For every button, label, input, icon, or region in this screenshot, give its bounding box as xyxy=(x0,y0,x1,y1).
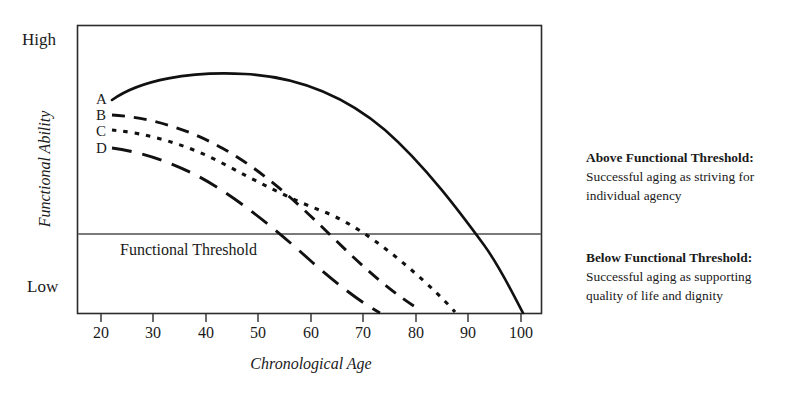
curve-label-b: B xyxy=(96,108,106,123)
annotation-above-threshold: Above Functional Threshold: Successful a… xyxy=(586,148,792,205)
x-tick-30: 30 xyxy=(133,324,173,342)
x-axis-ticks xyxy=(101,313,521,322)
x-axis-title: Chronological Age xyxy=(196,355,426,373)
annotation-above-title: Above Functional Threshold: xyxy=(586,148,792,167)
functional-threshold-caption: Functional Threshold xyxy=(120,241,257,259)
x-tick-80: 80 xyxy=(396,324,436,342)
curve-label-a: A xyxy=(96,92,107,107)
curve-b-path xyxy=(112,115,420,310)
curve-d-path xyxy=(112,148,380,313)
x-tick-20: 20 xyxy=(81,324,121,342)
y-axis-title: Functional Ability xyxy=(36,69,54,269)
annotation-above-body: Successful aging as striving for individ… xyxy=(586,167,792,205)
x-tick-60: 60 xyxy=(291,324,331,342)
x-tick-100: 100 xyxy=(501,324,541,342)
annotation-below-title: Below Functional Threshold: xyxy=(586,248,792,267)
x-tick-70: 70 xyxy=(343,324,383,342)
x-tick-50: 50 xyxy=(238,324,278,342)
plot-frame xyxy=(78,26,542,314)
annotation-below-body: Successful aging as supporting quality o… xyxy=(586,267,792,305)
curve-label-d: D xyxy=(96,141,107,156)
curve-a-path xyxy=(112,73,523,313)
functional-ability-figure: High Low Functional Ability 20 30 40 50 … xyxy=(0,0,798,398)
x-tick-40: 40 xyxy=(186,324,226,342)
curve-label-c: C xyxy=(96,124,106,139)
curve-c-path xyxy=(112,130,455,312)
x-tick-90: 90 xyxy=(448,324,488,342)
annotation-below-threshold: Below Functional Threshold: Successful a… xyxy=(586,248,792,305)
y-axis-low-label: Low xyxy=(27,277,58,297)
y-axis-high-label: High xyxy=(22,30,56,50)
